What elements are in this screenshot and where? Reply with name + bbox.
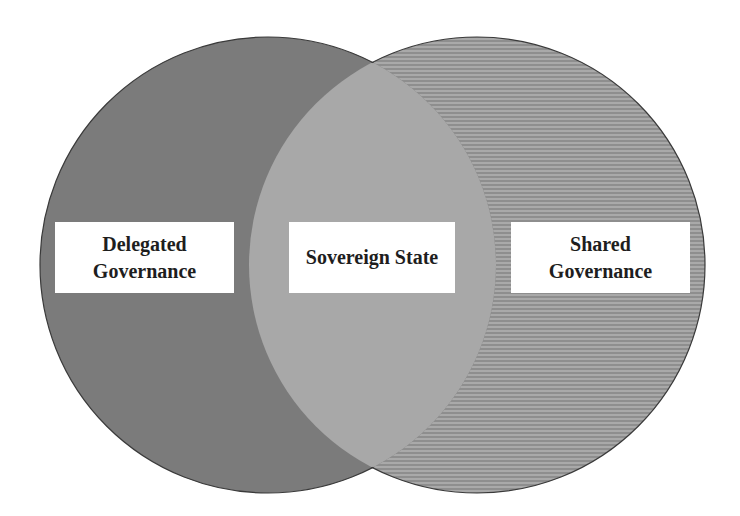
sovereign-state-label-text: Sovereign State bbox=[306, 244, 438, 271]
shared-governance-label-line-2: Governance bbox=[549, 258, 652, 285]
shared-governance-label-line-1: Shared bbox=[570, 231, 631, 258]
sovereign-state-label: Sovereign State bbox=[289, 222, 455, 293]
delegated-governance-label-line-2: Governance bbox=[93, 258, 196, 285]
delegated-governance-label-line-1: Delegated bbox=[102, 231, 186, 258]
delegated-governance-label: Delegated Governance bbox=[55, 222, 234, 293]
shared-governance-label: Shared Governance bbox=[511, 222, 690, 293]
